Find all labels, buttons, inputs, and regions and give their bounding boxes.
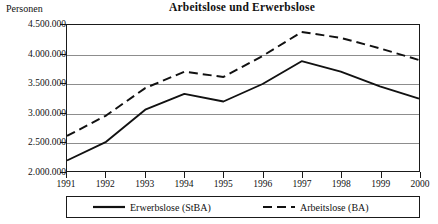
- y-tick-label: 2.500.000: [4, 137, 66, 147]
- x-tick-mark: [302, 172, 303, 178]
- x-tick-label: 1992: [96, 179, 115, 189]
- x-axis-labels: 1991199219931994199519961997199819992000: [66, 172, 420, 194]
- chart-legend: Erwerbslose (StBA)Arbeitslose (BA): [66, 196, 420, 218]
- legend-label: Arbeitslose (BA): [300, 202, 369, 213]
- y-tick-label: 3.500.000: [4, 78, 66, 88]
- x-tick-label: 1997: [293, 179, 312, 189]
- x-tick-label: 1994: [175, 179, 194, 189]
- y-axis-title: Personen: [6, 3, 43, 14]
- legend-item[interactable]: Erwerbslose (StBA): [93, 197, 211, 217]
- chart-title: Arbeitslose und Erwerbslose: [64, 1, 420, 13]
- x-tick-mark: [223, 172, 224, 178]
- x-tick-label: 1996: [253, 179, 272, 189]
- y-tick-label: 2.000.000: [4, 167, 66, 177]
- chart-container: Personen Arbeitslose und Erwerbslose 2.0…: [0, 0, 438, 224]
- y-tick-label: 3.000.000: [4, 108, 66, 118]
- legend-item[interactable]: Arbeitslose (BA): [263, 197, 369, 217]
- solid-line-icon: [93, 203, 125, 211]
- x-tick-mark: [341, 172, 342, 178]
- x-tick-mark: [420, 172, 421, 178]
- x-tick-label: 2000: [411, 179, 430, 189]
- x-tick-label: 1991: [57, 179, 76, 189]
- x-tick-label: 1998: [332, 179, 351, 189]
- x-tick-mark: [66, 172, 67, 178]
- y-tick-label: 4.000.000: [4, 49, 66, 59]
- series-lines: [67, 25, 419, 171]
- legend-label: Erwerbslose (StBA): [130, 202, 211, 213]
- x-tick-mark: [263, 172, 264, 178]
- x-tick-mark: [184, 172, 185, 178]
- x-tick-mark: [145, 172, 146, 178]
- y-tick-label: 4.500.000: [4, 19, 66, 29]
- x-tick-label: 1995: [214, 179, 233, 189]
- series-line-solid: [67, 61, 419, 160]
- series-line-dashed: [67, 32, 419, 136]
- x-tick-mark: [105, 172, 106, 178]
- x-tick-label: 1999: [371, 179, 390, 189]
- y-axis-labels: 2.000.0002.500.0003.000.0003.500.0004.00…: [0, 24, 66, 172]
- plot-area: [66, 24, 420, 172]
- x-tick-mark: [381, 172, 382, 178]
- dashed-line-icon: [263, 203, 295, 211]
- x-tick-label: 1993: [135, 179, 154, 189]
